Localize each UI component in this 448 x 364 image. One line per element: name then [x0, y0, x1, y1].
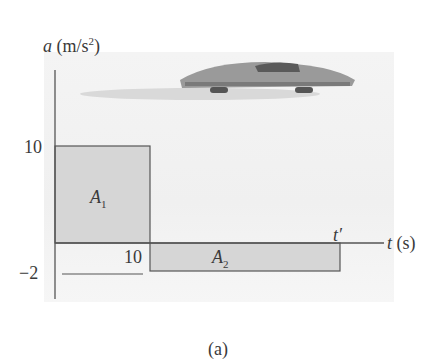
area-a2 [150, 243, 340, 271]
area2-label: A2 [212, 248, 229, 270]
x-tick-10: 10 [124, 248, 142, 266]
y-tick-10: 10 [24, 138, 42, 156]
y-axis-label: a (m/s2) [43, 36, 100, 55]
figure-caption: (a) [208, 340, 228, 358]
y-tick-neg2: −2 [19, 264, 38, 282]
area1-label: A1 [90, 188, 107, 210]
x-axis-label: t (s) [387, 234, 416, 252]
car-image [80, 62, 355, 100]
x-tick-tprime: t′ [333, 226, 342, 244]
